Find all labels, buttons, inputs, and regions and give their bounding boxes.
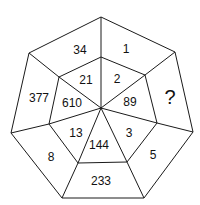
cell-inner-left: 610 [62,97,82,109]
cell-outer-bottom: 233 [91,175,111,187]
cell-inner-top-left: 21 [79,74,92,86]
cell-inner-lower-left: 13 [69,127,82,139]
cell-outer-right-unknown: ? [164,87,175,107]
spoke-line [101,108,127,162]
cell-inner-top-right: 2 [114,73,121,85]
cell-inner-right: 89 [123,96,136,108]
spoke-line [49,108,101,124]
connector-line [29,53,59,77]
connector-line [11,124,49,133]
cell-outer-top-left: 34 [73,44,86,56]
cell-outer-top-right: 1 [123,43,130,55]
connector-line [62,163,78,198]
connector-line [145,52,175,75]
cell-outer-lower-right: 5 [150,149,157,161]
spoke-line [101,108,157,123]
cell-outer-lower-left: 8 [48,151,55,163]
cell-inner-lower-right: 3 [126,127,133,139]
heptagon-puzzle: 34 1 ? 5 233 8 377 21 2 89 3 144 13 610 [0,0,200,205]
cell-outer-left: 377 [29,92,49,104]
connector-line [127,162,144,198]
cell-inner-bottom: 144 [89,139,109,151]
connector-line [157,123,193,132]
